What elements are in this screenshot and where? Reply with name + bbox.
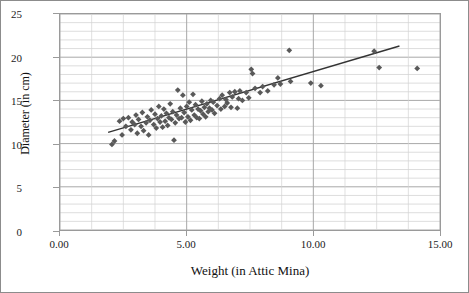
x-axis-tick bbox=[186, 231, 187, 236]
y-tick-label: 0 bbox=[0, 227, 22, 238]
x-axis-tick bbox=[59, 231, 60, 236]
x-tick-label: 0.00 bbox=[35, 239, 83, 250]
x-axis-tick bbox=[440, 231, 441, 236]
data-points-layer bbox=[60, 14, 440, 230]
x-tick-label: 5.00 bbox=[162, 239, 210, 250]
x-axis-tick bbox=[313, 231, 314, 236]
x-tick-label: 15.00 bbox=[416, 239, 464, 250]
x-tick-label: 10.00 bbox=[289, 239, 337, 250]
y-axis-title: Diameter (in cm) bbox=[18, 39, 33, 189]
chart-figure: 0 5 10 15 20 25 0.00 5.00 10.00 15.00 Di… bbox=[0, 0, 469, 293]
x-axis-title: Weight (in Attic Mina) bbox=[59, 263, 441, 279]
y-tick-label: 25 bbox=[0, 9, 22, 20]
plot-area bbox=[59, 13, 441, 231]
